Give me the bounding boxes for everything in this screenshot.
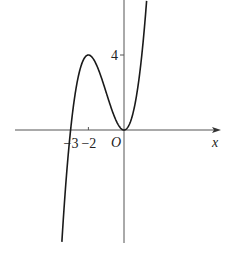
x-axis-label: x (211, 135, 219, 150)
x-tick-label: −3 (64, 136, 79, 151)
x-tick-label: −2 (81, 136, 96, 151)
function-graph: x O −3−24 (0, 0, 226, 258)
function-curve (62, 1, 147, 242)
y-tick-label: 4 (111, 48, 118, 63)
origin-label: O (111, 135, 121, 150)
